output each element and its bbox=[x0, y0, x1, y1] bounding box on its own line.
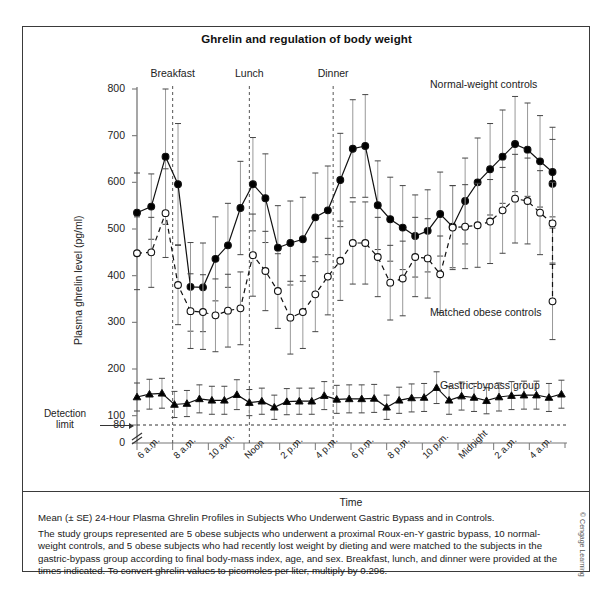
series-label-matched-obese-controls: Matched obese controls bbox=[430, 306, 541, 318]
detection-limit-label-2: limit bbox=[30, 419, 100, 430]
meal-label-lunch: Lunch bbox=[219, 67, 279, 79]
caption-lead: Mean (± SE) 24-Hour Plasma Ghrelin Profi… bbox=[38, 512, 562, 525]
series-label-gastric-bypass-group: Gastric-bypass group bbox=[440, 379, 540, 391]
credit-line: © Cengage Learning bbox=[579, 512, 586, 577]
series-label-normal-weight-controls: Normal-weight controls bbox=[430, 78, 537, 90]
series-1 bbox=[134, 154, 556, 354]
figure-page: Ghrelin and regulation of body weight 08… bbox=[0, 0, 613, 596]
y-tick-label-300: 300 bbox=[85, 315, 125, 327]
detection-limit-label: Detection bbox=[30, 408, 100, 419]
caption-body: The study groups represented are 5 obese… bbox=[38, 528, 557, 577]
x-axis-title: Time bbox=[137, 496, 565, 508]
meal-label-dinner: Dinner bbox=[303, 67, 363, 79]
y-tick-label-400: 400 bbox=[85, 269, 125, 281]
y-tick-label-200: 200 bbox=[85, 362, 125, 374]
y-axis-title: Plasma ghrelin level (pg/ml) bbox=[72, 215, 84, 345]
y-tick-label-500: 500 bbox=[85, 222, 125, 234]
meal-label-breakfast: Breakfast bbox=[143, 67, 203, 79]
y-tick-label-700: 700 bbox=[85, 129, 125, 141]
y-tick-label-600: 600 bbox=[85, 175, 125, 187]
series-0 bbox=[134, 89, 556, 332]
figure-caption: Mean (± SE) 24-Hour Plasma Ghrelin Profi… bbox=[38, 512, 562, 578]
y-tick-label-0: 0 bbox=[85, 436, 125, 448]
y-tick-label-800: 800 bbox=[85, 82, 125, 94]
detection-limit-arrow bbox=[100, 425, 133, 426]
